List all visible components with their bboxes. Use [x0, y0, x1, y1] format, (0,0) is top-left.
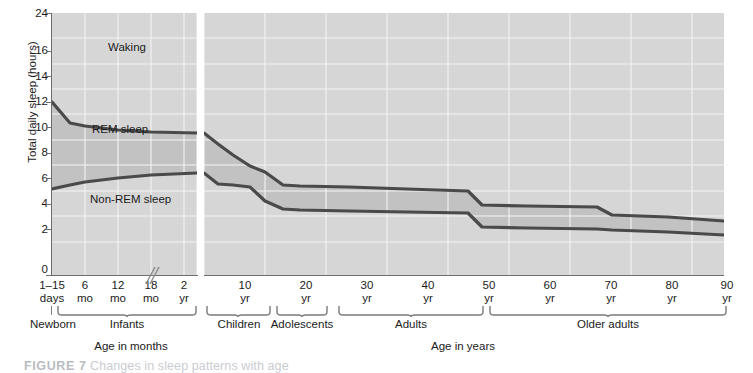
y-tick-16: 16 [8, 45, 48, 57]
y-axis-line [51, 13, 52, 276]
x-tick-line2: yr [340, 292, 394, 305]
series-label-rem: REM sleep [92, 123, 148, 135]
y-tick-mark-4 [46, 204, 51, 205]
bracket-children [206, 306, 271, 317]
x-axis-line-right [204, 275, 724, 276]
y-tick-mark-2 [46, 229, 51, 230]
x-axis-line-left [51, 275, 198, 276]
group-label-adults: Adults [378, 318, 444, 330]
x-tick-line1: 70 [605, 279, 618, 291]
y-tick-mark-8 [46, 153, 51, 154]
x-tick-20-yr: 20 yr [279, 279, 333, 305]
y-tick-mark-0 [46, 275, 51, 276]
x-tick-line1: 10 [239, 279, 252, 291]
x-tick-line2: yr [462, 292, 516, 305]
figure-caption: FIGURE 7 Changes in sleep patterns with … [24, 359, 744, 373]
y-tick-4: 4 [8, 198, 48, 210]
group-label-infants: Infants [87, 318, 167, 330]
y-tick-24: 24 [8, 8, 48, 20]
y-tick-group: 24 16 14 12 10 8 6 4 2 0 [0, 0, 48, 369]
bracket-adolescents [276, 306, 328, 317]
bracket-adults [338, 306, 484, 317]
x-tick-line2: yr [401, 292, 455, 305]
y-tick-mark-24 [46, 13, 51, 14]
group-label-older-adults: Older adults [572, 318, 644, 330]
x-tick-2-yr: 2 yr [157, 279, 211, 305]
x-axis-break-icon [141, 266, 163, 286]
x-tick-line1: 80 [666, 279, 679, 291]
x-tick-line2: yr [279, 292, 333, 305]
plot-inner [52, 13, 724, 275]
x-tick-line2: yr [645, 292, 699, 305]
group-label-children: Children [206, 318, 272, 330]
x-axis-subtitle-years: Age in years [423, 340, 503, 352]
series-label-nonrem: Non-REM sleep [90, 193, 171, 205]
x-tick-line2: yr [157, 292, 211, 305]
bracket-infants [57, 306, 197, 317]
plot-area: Waking REM sleep Non-REM sleep [52, 13, 724, 275]
x-tick-line1: 2 [181, 279, 187, 291]
y-tick-mark-12 [46, 102, 51, 103]
x-tick-90-yr: 90 yr [700, 279, 753, 305]
series-label-waking: Waking [108, 41, 146, 53]
x-tick-10-yr: 10 yr [218, 279, 272, 305]
figure-caption-number: FIGURE 7 [24, 359, 86, 373]
x-axis-break-gutter [197, 13, 204, 275]
y-tick-mark-16 [46, 51, 51, 52]
x-tick-line1: 20 [300, 279, 313, 291]
x-tick-80-yr: 80 yr [645, 279, 699, 305]
bracket-older-adults [489, 306, 727, 317]
x-tick-30-yr: 30 yr [340, 279, 394, 305]
x-tick-line1: 90 [721, 279, 734, 291]
x-tick-line1: 6 [82, 279, 88, 291]
x-tick-line2: yr [700, 292, 753, 305]
x-tick-60-yr: 60 yr [523, 279, 577, 305]
x-tick-50-yr: 50 yr [462, 279, 516, 305]
x-tick-line1: 60 [544, 279, 557, 291]
x-tick-line1: 50 [483, 279, 496, 291]
y-tick-14: 14 [8, 71, 48, 83]
y-tick-12: 12 [8, 96, 48, 108]
y-tick-6: 6 [8, 173, 48, 185]
x-tick-line1: 12 [112, 279, 125, 291]
figure-caption-text: Changes in sleep patterns with age [90, 359, 289, 373]
group-label-newborn: Newborn [10, 318, 96, 330]
y-tick-mark-6 [46, 178, 51, 179]
x-tick-70-yr: 70 yr [584, 279, 638, 305]
y-tick-mark-10 [46, 127, 51, 128]
y-tick-10: 10 [8, 122, 48, 134]
x-tick-line2: yr [218, 292, 272, 305]
y-tick-8: 8 [8, 147, 48, 159]
y-tick-2: 2 [8, 224, 48, 236]
x-axis-subtitle-months: Age in months [91, 340, 171, 352]
bracket-newborn [51, 306, 52, 315]
y-tick-mark-14 [46, 76, 51, 77]
group-label-adolescents: Adolescents [269, 318, 335, 330]
y-tick-0: 0 [8, 264, 48, 276]
x-tick-40-yr: 40 yr [401, 279, 455, 305]
x-tick-line2: yr [584, 292, 638, 305]
x-tick-line1: 30 [361, 279, 374, 291]
x-tick-line2: yr [523, 292, 577, 305]
x-tick-line1: 40 [422, 279, 435, 291]
chart-svg [52, 13, 724, 275]
